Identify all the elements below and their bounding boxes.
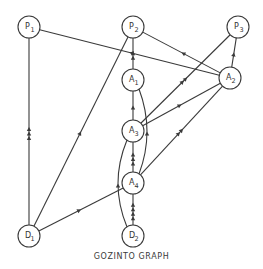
gozinto-graph: P1P2P3A1A2A3A4D1D2 <box>0 0 263 269</box>
arrowhead-icon <box>27 127 31 131</box>
edge-d2-a4 <box>131 194 135 225</box>
arrowhead-icon <box>131 216 135 220</box>
node-label: P <box>234 22 239 31</box>
node-subscript: 1 <box>135 79 139 87</box>
node-d2: D2 <box>122 225 144 247</box>
arrowhead-icon <box>131 56 135 60</box>
node-p2: P2 <box>122 16 144 38</box>
node-subscript: 3 <box>240 26 244 34</box>
arrowhead-icon <box>131 157 135 161</box>
node-subscript: 4 <box>135 182 139 190</box>
node-subscript: 1 <box>31 26 35 34</box>
arrowhead-icon <box>116 184 120 188</box>
edge-d1-p2 <box>34 37 128 226</box>
node-subscript: 2 <box>135 235 139 243</box>
node-p3: P3 <box>227 16 249 38</box>
node-a2: A2 <box>219 67 241 89</box>
edge-d1-p1 <box>27 38 31 225</box>
arrowhead-icon <box>131 106 135 110</box>
node-label: P <box>129 22 134 31</box>
arrowhead-icon <box>131 203 135 207</box>
node-a4: A4 <box>122 172 144 194</box>
node-subscript: 2 <box>232 77 236 85</box>
node-subscript: 1 <box>31 235 35 243</box>
arrowhead-icon <box>145 132 149 136</box>
edge-d1-a4 <box>39 188 123 231</box>
node-a1: A1 <box>122 69 144 91</box>
edge-a2-p2 <box>143 32 221 73</box>
node-label: P <box>25 22 30 31</box>
node-subscript: 3 <box>135 130 139 138</box>
node-p1: P1 <box>18 16 40 38</box>
arrowhead-icon <box>27 132 31 136</box>
edge-a3-p3 <box>141 35 230 124</box>
arrowhead-icon <box>131 162 135 166</box>
arrowhead-icon <box>27 136 31 140</box>
edge-a4-a3 <box>131 142 135 172</box>
edge-a4-a2 <box>140 86 222 175</box>
node-d1: D1 <box>18 225 40 247</box>
arrowhead-icon <box>131 212 135 216</box>
edge-a2-p3 <box>231 38 236 67</box>
node-a3: A3 <box>122 120 144 142</box>
edge-a3-a1 <box>131 91 135 120</box>
node-subscript: 2 <box>135 26 139 34</box>
arrowhead-icon <box>131 153 135 157</box>
diagram-caption: GOZINTO GRAPH <box>0 252 263 261</box>
arrowhead-icon <box>131 207 135 211</box>
edge-a3-a2 <box>143 83 221 125</box>
